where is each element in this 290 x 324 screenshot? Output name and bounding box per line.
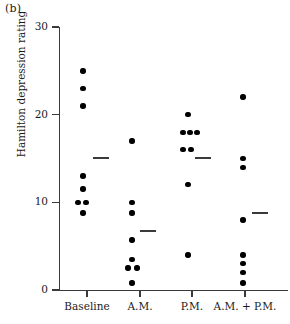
data-point [80, 103, 85, 108]
data-point [185, 112, 190, 117]
data-point [80, 210, 85, 215]
data-point [83, 200, 88, 205]
data-point [185, 252, 190, 257]
x-tick-mark [139, 291, 140, 297]
data-point [80, 68, 85, 73]
data-point [240, 252, 245, 257]
x-tick-label: A.M. + P.M. [200, 300, 290, 312]
data-point [240, 261, 245, 266]
data-point [80, 173, 85, 178]
y-tick-label: 20 [18, 108, 48, 120]
data-point [240, 280, 245, 285]
data-point [129, 237, 134, 242]
data-point [187, 130, 192, 135]
data-point [185, 182, 190, 187]
x-tick-mark [191, 291, 192, 297]
mean-bar [93, 157, 109, 159]
y-tick-label: 30 [18, 20, 48, 32]
y-tick-mark [52, 26, 59, 27]
y-tick-mark [52, 289, 59, 290]
data-point [180, 130, 185, 135]
data-point [240, 217, 245, 222]
data-point [194, 130, 199, 135]
data-point [75, 200, 80, 205]
figure-panel-b: (b) Hamilton depression rating 0102030 B… [0, 0, 290, 324]
data-point [240, 156, 245, 161]
mean-bar [195, 157, 211, 159]
x-tick-mark [86, 291, 87, 297]
data-point [240, 165, 245, 170]
x-tick-mark [244, 291, 245, 297]
mean-bar [140, 230, 156, 232]
data-point [80, 86, 85, 91]
data-point [240, 270, 245, 275]
data-point [80, 186, 85, 191]
data-point [129, 257, 134, 262]
y-tick-mark [52, 202, 59, 203]
data-point [188, 147, 193, 152]
y-axis-line [59, 27, 60, 291]
y-tick-mark [52, 114, 59, 115]
data-point [125, 265, 130, 270]
y-tick-label: 0 [18, 283, 48, 295]
data-point [129, 138, 134, 143]
data-point [180, 147, 185, 152]
mean-bar [252, 212, 268, 214]
y-tick-label: 10 [18, 195, 48, 207]
scatter-plot-area: 0102030 BaselineA.M.P.M.A.M. + P.M. [0, 0, 290, 324]
data-point [134, 265, 139, 270]
data-point [129, 200, 134, 205]
data-point [129, 210, 134, 215]
data-point [240, 94, 245, 99]
data-point [129, 280, 134, 285]
